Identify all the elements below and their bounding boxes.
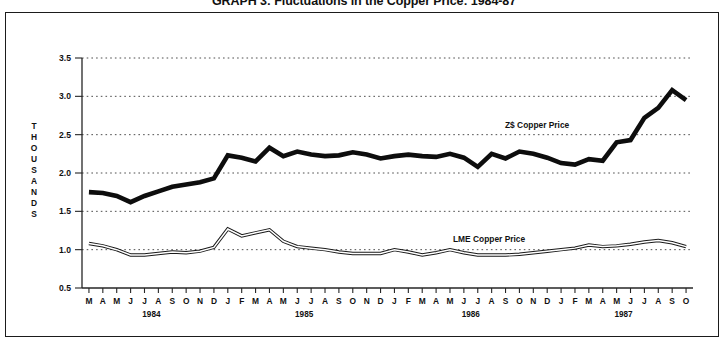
x-tick-label: F: [572, 296, 577, 306]
x-tick-label: M: [85, 296, 92, 306]
x-tick-label: O: [350, 296, 357, 306]
y-axis-title-letter: A: [31, 176, 37, 186]
x-tick-label: J: [475, 296, 480, 306]
y-axis-title-letter: U: [31, 154, 37, 164]
x-axis-year-label: 1986: [462, 310, 481, 319]
series-annotations-group: Z$ Copper PriceLME Copper Price: [453, 120, 570, 244]
series-lme-group: [89, 229, 686, 255]
x-tick-label: A: [600, 296, 606, 306]
x-tick-label: J: [309, 296, 314, 306]
x-tick-label: M: [252, 296, 259, 306]
x-tick-label: S: [169, 296, 175, 306]
y-tick-label: 2.0: [59, 168, 71, 178]
x-axis-year-label: 1987: [614, 310, 633, 319]
x-tick-label: N: [197, 296, 203, 306]
series-line-zs-copper-price: [89, 90, 686, 202]
chart-page: GRAPH 3: Fluctuations in the Copper Pric…: [0, 0, 728, 350]
x-tick-label: J: [628, 296, 633, 306]
x-tick-label: J: [559, 296, 564, 306]
series-label-lme-copper-price: LME Copper Price: [453, 234, 525, 244]
y-tick-label: 3.5: [59, 53, 71, 63]
x-tick-label: M: [585, 296, 592, 306]
x-tick-label: A: [655, 296, 661, 306]
y-axis-title-letter: S: [31, 209, 37, 219]
x-tick-label: J: [462, 296, 467, 306]
x-tick-label: J: [295, 296, 300, 306]
x-tick-label: A: [433, 296, 439, 306]
y-tick-label: 2.5: [59, 130, 71, 140]
y-axis-title-letter: S: [31, 165, 37, 175]
x-tick-label: J: [392, 296, 397, 306]
x-tick-label: M: [419, 296, 426, 306]
x-tick-label: N: [530, 296, 536, 306]
y-axis-title-letter: T: [31, 121, 37, 131]
series-zs-group: [89, 90, 686, 202]
x-tick-label: A: [489, 296, 495, 306]
x-tick-label: M: [613, 296, 620, 306]
x-tick-label: J: [225, 296, 230, 306]
x-tick-label: D: [544, 296, 550, 306]
x-tick-label: J: [142, 296, 147, 306]
x-tick-labels-group: MAMJJASONDJFMAMJJASONDJFMAMJJASONDJFMAMJ…: [85, 296, 689, 306]
x-tick-label: A: [322, 296, 328, 306]
x-tick-label: D: [211, 296, 217, 306]
x-tick-label: M: [446, 296, 453, 306]
x-tick-label: J: [128, 296, 133, 306]
y-tick-labels-group: 3.53.02.52.01.51.00.5: [59, 53, 82, 293]
y-axis-title-letter: O: [31, 143, 38, 153]
y-axis-title-letter: D: [31, 198, 37, 208]
x-tick-label: F: [406, 296, 411, 306]
x-tick-label: M: [280, 296, 287, 306]
x-tick-label: N: [364, 296, 370, 306]
y-axis-title-letter: N: [31, 187, 37, 197]
x-tick-label: A: [155, 296, 161, 306]
x-tick-label: D: [378, 296, 384, 306]
y-tick-label: 0.5: [59, 283, 71, 293]
gridlines-group: [82, 58, 693, 250]
x-axis-year-label: 1985: [295, 310, 314, 319]
x-tick-label: S: [503, 296, 509, 306]
x-tick-label: S: [336, 296, 342, 306]
x-axis-year-label: 1984: [142, 310, 161, 319]
x-tick-label: J: [642, 296, 647, 306]
x-tick-label: O: [183, 296, 190, 306]
y-axis-title-letter: H: [31, 132, 37, 142]
series-label-zs-copper-price: Z$ Copper Price: [505, 120, 570, 130]
x-tick-label: A: [100, 296, 106, 306]
x-tick-label: M: [113, 296, 120, 306]
y-tick-label: 1.5: [59, 206, 71, 216]
y-axis-title-group: THOUSANDS: [31, 121, 38, 219]
y-tick-label: 3.0: [59, 91, 71, 101]
x-tick-label: O: [683, 296, 690, 306]
chart-plot-area: 3.53.02.52.01.51.00.5 MAMJJASONDJFMAMJJA…: [0, 0, 728, 350]
x-tick-label: A: [266, 296, 272, 306]
y-tick-label: 1.0: [59, 245, 71, 255]
x-tick-label: O: [516, 296, 523, 306]
x-tick-label: S: [669, 296, 675, 306]
x-tick-label: F: [239, 296, 244, 306]
year-labels-group: 1984198519861987: [142, 310, 633, 319]
x-tick-marks-group: [89, 288, 686, 293]
